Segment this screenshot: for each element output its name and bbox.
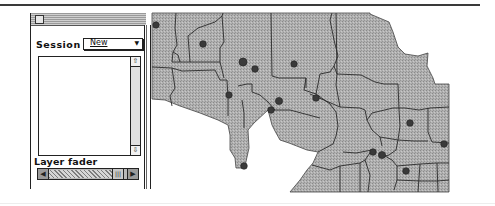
session-list[interactable]: ⇧ ⇩	[38, 56, 141, 156]
bottom-rule	[0, 203, 495, 204]
session-dropdown-value: New	[90, 38, 107, 47]
scroll-up-arrow-icon[interactable]: ⇧	[131, 57, 140, 67]
session-label: Session	[36, 39, 81, 50]
scroll-down-arrow-icon[interactable]: ⇩	[131, 145, 140, 155]
site-dot	[226, 92, 232, 98]
close-box-icon[interactable]	[35, 15, 44, 24]
palette-title-bar[interactable]	[31, 13, 146, 26]
fader-thumb[interactable]: |||	[112, 169, 124, 179]
site-dot	[313, 95, 320, 102]
site-dot	[291, 61, 297, 67]
site-dot	[403, 168, 410, 175]
palette-window-edge	[144, 25, 151, 189]
session-palette-window: Session New ▼ ⇧ ⇩ Layer fader ◀ ||| ▶	[30, 13, 146, 189]
dropdown-arrow-icon: ▼	[134, 39, 139, 46]
layer-fader-slider[interactable]: ◀ ||| ▶	[37, 168, 139, 180]
site-dot	[153, 22, 159, 28]
layer-fader-label: Layer fader	[34, 156, 97, 167]
vertical-scrollbar[interactable]: ⇧ ⇩	[130, 57, 140, 155]
fader-right-arrow-icon[interactable]: ▶	[127, 169, 138, 179]
site-dot	[378, 151, 385, 158]
site-dot	[241, 163, 248, 170]
site-dot	[275, 97, 282, 104]
fader-left-arrow-icon[interactable]: ◀	[38, 169, 49, 179]
site-dot	[200, 41, 207, 48]
site-dot	[441, 141, 448, 148]
site-dot	[268, 107, 275, 114]
site-dot	[239, 58, 247, 66]
site-dot	[407, 120, 414, 127]
site-dot	[370, 149, 377, 156]
session-dropdown[interactable]: New ▼	[83, 38, 143, 50]
site-dot	[252, 66, 259, 73]
